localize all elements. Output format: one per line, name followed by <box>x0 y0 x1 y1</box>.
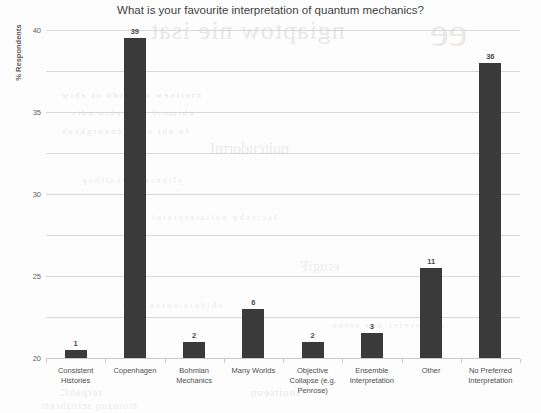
x-axis-label-line: No Preferred <box>459 366 521 376</box>
x-axis-category-label[interactable]: EnsembleInterpretation <box>341 366 403 386</box>
x-axis-category-label[interactable]: Other <box>400 366 462 376</box>
gridline: 5 <box>46 317 520 318</box>
x-axis-label-line: Copenhagen <box>104 366 166 376</box>
chart-title: What is your favourite interpretation of… <box>0 4 541 16</box>
x-axis-label-line: Many Worlds <box>222 366 284 376</box>
bar-value-label: 2 <box>164 331 224 340</box>
bar-value-label: 3 <box>342 322 402 331</box>
x-axis-tick-mark <box>165 359 166 363</box>
x-axis-label-line: Interpretation <box>459 376 521 386</box>
x-axis-label-line: Collapse (e.g. <box>282 376 344 386</box>
x-axis-tick-mark <box>224 359 225 363</box>
x-axis-tick-mark <box>461 359 462 363</box>
bar[interactable] <box>124 38 146 358</box>
bar-value-label: 6 <box>223 298 283 307</box>
x-axis-tick-mark <box>46 359 47 363</box>
gridline: 20 <box>46 194 520 195</box>
x-axis-tick-mark <box>342 359 343 363</box>
x-axis-label-line: Penrose) <box>282 386 344 396</box>
x-axis-label-line: Objective <box>282 366 344 376</box>
x-axis-category-label[interactable]: ObjectiveCollapse (e.g.Penrose) <box>282 366 344 396</box>
plot-area: 051015202530354013926231136 <box>46 30 520 358</box>
x-axis-category-label[interactable]: No PreferredInterpretation <box>459 366 521 386</box>
bar-value-label: 1 <box>46 339 106 348</box>
x-axis-category-label[interactable]: ConsistentHistories <box>45 366 107 386</box>
x-axis-category-label[interactable]: BohmianMechanics <box>163 366 225 386</box>
bar[interactable] <box>242 309 264 358</box>
x-axis-label-line: Ensemble <box>341 366 403 376</box>
y-axis-tick-label: 30 <box>33 190 41 199</box>
x-axis-tick-mark <box>520 359 521 363</box>
bar[interactable] <box>361 333 383 358</box>
x-axis-label-line: Bohmian <box>163 366 225 376</box>
x-axis-label-line: Other <box>400 366 462 376</box>
gridline: 25 <box>46 153 520 154</box>
bar-value-label: 2 <box>283 331 343 340</box>
bar[interactable] <box>302 342 324 358</box>
scan-bleed-artifact: retpahC <box>60 386 102 398</box>
x-axis-label-line: Interpretation <box>341 376 403 386</box>
x-axis-tick-mark <box>283 359 284 363</box>
gridline: 15 <box>46 235 520 236</box>
gridline: 30 <box>46 112 520 113</box>
chart-page: ngiaptow nie isat ee nteitvew nsitatdn o… <box>0 0 541 413</box>
x-axis-label-line: Histories <box>45 376 107 386</box>
y-axis-tick-label: 20 <box>33 354 41 363</box>
x-axis-tick-mark <box>402 359 403 363</box>
x-axis-label-line: Mechanics <box>163 376 225 386</box>
y-axis-tick-label: 35 <box>33 108 41 117</box>
scan-bleed-artifact: mutnauq scinahcem <box>40 400 137 411</box>
bar-value-label: 39 <box>105 27 165 36</box>
y-axis-tick-label: 40 <box>33 26 41 35</box>
x-axis-category-label[interactable]: Many Worlds <box>222 366 284 376</box>
bar-value-label: 11 <box>401 257 461 266</box>
bar[interactable] <box>65 350 87 358</box>
bar[interactable] <box>420 268 442 358</box>
bar[interactable] <box>183 342 205 358</box>
gridline: 35 <box>46 71 520 72</box>
x-axis-category-label[interactable]: Copenhagen <box>104 366 166 376</box>
bar[interactable] <box>479 63 501 358</box>
y-axis-label: % Respondents <box>14 5 23 101</box>
bar-value-label: 36 <box>460 52 520 61</box>
y-axis-tick-label: 25 <box>33 272 41 281</box>
x-axis-label-line: Consistent <box>45 366 107 376</box>
x-axis-tick-mark <box>105 359 106 363</box>
gridline: 10 <box>46 276 520 277</box>
